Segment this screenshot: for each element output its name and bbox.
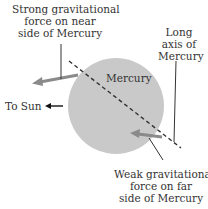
- near-force-line-3: side of Mercury: [12, 27, 108, 39]
- far-force-line-2: force on far: [114, 180, 208, 192]
- long-axis-line-2: axis of: [158, 38, 200, 50]
- long-axis-line-1: Long: [158, 26, 200, 38]
- far-force-leader: [149, 138, 163, 160]
- far-force-label: Weak gravitational force on far side of …: [114, 168, 208, 204]
- long-axis-leader: [174, 61, 176, 142]
- far-force-line-3: side of Mercury: [114, 192, 208, 204]
- near-force-line-2: force on near: [12, 15, 108, 27]
- to-sun-arrowhead: [45, 103, 51, 109]
- planet-label: Mercury: [106, 72, 152, 84]
- near-force-label: Strong gravitational force on near side …: [12, 3, 108, 39]
- strong-force-arrow: [40, 75, 78, 82]
- strong-force-arrowhead: [32, 77, 43, 86]
- long-axis-line-3: Mercury: [158, 50, 200, 62]
- near-force-line-1: Strong gravitational: [12, 3, 108, 15]
- long-axis-label: Long axis of Mercury: [158, 26, 200, 62]
- tidal-force-diagram: Strong gravitational force on near side …: [0, 0, 208, 209]
- sun-label: To Sun: [5, 100, 42, 112]
- far-force-line-1: Weak gravitational: [114, 168, 208, 180]
